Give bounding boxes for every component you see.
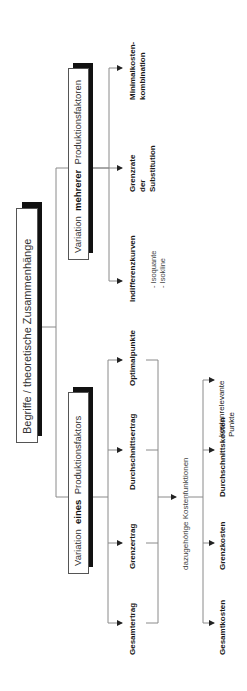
root-label: Begriffe / theoretische Zusammenhänge [21, 214, 33, 434]
node-grenzkosten: Grenzkosten [218, 522, 228, 570]
node-optimalpunkte: Optimalpunkte [128, 330, 138, 386]
node-grenzertrag: Grenzertrag [128, 524, 138, 569]
single-branch-label: Variation eines Produktionsfaktors [72, 416, 83, 566]
node-minimalkostenkombination: Minimalkosten- kombination [128, 42, 148, 100]
multi-branch-label-bold: mehrerer [72, 170, 83, 211]
node-durchschnittsertrag: Durchschnittsertrag [128, 414, 138, 490]
node-durchschnittskosten: Durchschnittskosten [218, 417, 228, 497]
multi-branch-label: Variation mehrerer Produktionsfaktoren [72, 80, 83, 253]
cost-functions-label: dazugehörige Kostenfunktionen [181, 457, 190, 570]
node-indifferenzkurven-subitems: - Isoquante - Isokline [149, 250, 167, 288]
node-gesamtkosten: Gesamtkosten [218, 600, 228, 655]
node-indifferenzkurven: Indifferenzkurven [128, 235, 138, 302]
node-gesamtertrag: Gesamtertrag [128, 603, 138, 655]
node-grenzrate-substitution: Grenzrate der Substitution [128, 145, 158, 192]
single-branch-label-bold: eines [72, 500, 83, 524]
